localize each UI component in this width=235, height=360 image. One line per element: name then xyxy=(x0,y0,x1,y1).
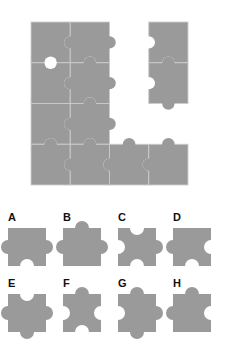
option-piece-shape-D[interactable] xyxy=(166,228,218,273)
option-piece-shape-G[interactable] xyxy=(111,287,163,339)
option-piece-shape-A[interactable] xyxy=(1,228,53,273)
option-piece-shape-B[interactable] xyxy=(56,221,108,266)
puzzle-piece-r3c3 xyxy=(143,138,188,185)
puzzle-piece-r1c3 xyxy=(143,57,188,110)
assembled-puzzle-graphic xyxy=(0,0,235,205)
option-piece-graphic-E[interactable] xyxy=(0,285,55,341)
option-piece-graphic-C[interactable] xyxy=(109,219,165,275)
option-piece-shape-E[interactable] xyxy=(1,287,53,339)
answer-options-region: A B C D E F G H xyxy=(0,205,235,360)
option-piece-graphic-D[interactable] xyxy=(164,219,220,275)
option-piece-A[interactable] xyxy=(0,219,55,275)
option-piece-shape-H[interactable] xyxy=(166,287,218,332)
option-piece-graphic-A[interactable] xyxy=(0,219,55,275)
option-piece-graphic-F[interactable] xyxy=(54,285,110,341)
option-piece-F[interactable] xyxy=(54,285,110,341)
option-piece-B[interactable] xyxy=(54,219,110,275)
option-piece-C[interactable] xyxy=(109,219,165,275)
option-piece-H[interactable] xyxy=(164,285,220,341)
option-piece-D[interactable] xyxy=(164,219,220,275)
option-piece-shape-C[interactable] xyxy=(111,221,163,273)
option-piece-graphic-B[interactable] xyxy=(54,219,110,275)
option-piece-graphic-H[interactable] xyxy=(164,285,220,341)
option-piece-graphic-G[interactable] xyxy=(109,285,165,341)
assembled-puzzle-region xyxy=(0,0,235,205)
option-piece-E[interactable] xyxy=(0,285,55,341)
option-piece-G[interactable] xyxy=(109,285,165,341)
option-piece-shape-F[interactable] xyxy=(56,287,108,339)
puzzle-task-canvas: A B C D E F G H xyxy=(0,0,235,360)
